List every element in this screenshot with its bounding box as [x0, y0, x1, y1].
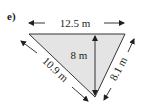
- part-label: e): [7, 10, 16, 23]
- top-side-label: 12.5 m: [60, 17, 91, 29]
- triangle-diagram: e) 12.5 m 8 m 10.9 m 8.1 m: [0, 0, 143, 109]
- top-side-dimension: 12.5 m: [29, 17, 124, 29]
- height-label: 8 m: [71, 49, 88, 61]
